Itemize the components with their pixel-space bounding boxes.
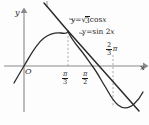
- tick-label-pi-symbol: π: [112, 46, 117, 53]
- x-axis-label: x: [140, 64, 145, 72]
- curve-label-cos-function: cos: [90, 15, 102, 24]
- curve-label-cos-prefix: y=: [71, 15, 81, 24]
- trig-graph-figure: y x O y=√3cosx y=sin 2x π 3 π 2 2 3 π: [0, 0, 149, 125]
- tick-label-pi-over-2: π 2: [82, 70, 88, 86]
- fraction-pi-over-3: π 3: [62, 71, 68, 85]
- tick-label-two-pi-over-3: 2 3 π: [106, 41, 117, 57]
- curve-label-cos-variable: x: [102, 15, 106, 24]
- curve-label-sqrt3-cos-x: y=√3cosx: [71, 15, 106, 23]
- curve-label-cos-radicand: 3: [85, 16, 90, 24]
- fraction-denominator: 3: [62, 78, 68, 86]
- y-axis-arrowhead: [21, 8, 28, 14]
- fraction-numerator: π: [62, 71, 68, 78]
- fraction-denominator: 2: [82, 78, 88, 86]
- tick-label-pi-over-3: π 3: [62, 70, 68, 86]
- fraction-pi-over-2: π 2: [82, 71, 88, 85]
- origin-label: O: [25, 68, 32, 76]
- curve-label-sin-text: y=sin 2: [82, 27, 110, 36]
- curve-label-sin-variable: x: [110, 27, 114, 36]
- y-axis-label: y: [15, 9, 20, 17]
- curve-label-sin-2x: y=sin 2x: [82, 28, 115, 35]
- fraction-numerator: π: [82, 71, 88, 78]
